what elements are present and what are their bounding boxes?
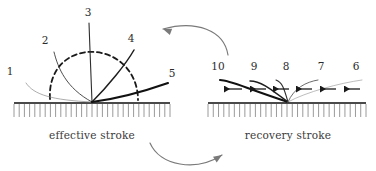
baseline-effective <box>14 103 170 117</box>
position-label-2: 2 <box>42 34 49 46</box>
position-label-6: 6 <box>353 60 360 72</box>
position-label-5: 5 <box>169 67 176 79</box>
position-label-8: 8 <box>283 60 290 72</box>
top-cycle-arrow <box>163 26 228 55</box>
baseline-recovery <box>208 103 366 117</box>
strokes-recovery <box>220 80 362 102</box>
bottom-cycle-arrow-head <box>213 155 222 162</box>
labels-recovery: 109876 <box>211 60 359 72</box>
cilium-curve-10 <box>220 80 288 102</box>
cilium-curve-3 <box>89 23 92 102</box>
position-label-1: 1 <box>7 65 14 77</box>
panel-effective-stroke: 12345 effective stroke <box>7 6 176 141</box>
cilium-curve-1 <box>26 83 92 102</box>
position-label-10: 10 <box>211 60 224 72</box>
figure-root: 12345 effective stroke 109876 recovery s… <box>0 0 376 171</box>
cilium-beat-cycle-diagram: 12345 effective stroke 109876 recovery s… <box>0 0 376 171</box>
position-label-9: 9 <box>251 60 258 72</box>
position-label-7: 7 <box>318 60 325 72</box>
caption-effective-stroke: effective stroke <box>49 129 135 141</box>
position-label-3: 3 <box>85 6 92 18</box>
panel-recovery-stroke: 109876 recovery stroke <box>208 60 366 141</box>
cilium-curve-7 <box>288 80 318 102</box>
position-label-4: 4 <box>128 32 135 44</box>
cilium-curve-5 <box>92 83 168 102</box>
bottom-cycle-arrow <box>150 143 222 165</box>
caption-recovery-stroke: recovery stroke <box>245 129 331 141</box>
cycle-arrows <box>150 26 228 165</box>
cilium-curve-6 <box>288 80 362 102</box>
top-cycle-arrow-head <box>163 29 172 35</box>
cilium-curve-2 <box>54 52 92 102</box>
